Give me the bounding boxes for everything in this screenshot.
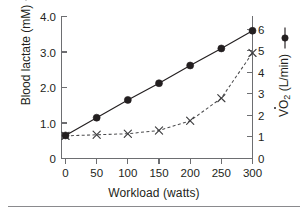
y-axis-right-title-unit: (L/min) (277, 54, 291, 91)
vo2-marker (155, 127, 162, 134)
y-left-tick-label: 2.0 (40, 82, 56, 94)
lactate-marker (187, 62, 194, 69)
y-left-tick-label: 4.0 (40, 11, 56, 23)
y-axis-right-tick-labels: 6 5 4 3 2 1 0 (258, 24, 265, 165)
y-left-tick-label: 0 (50, 153, 56, 165)
y-right-tick-label: 2 (258, 110, 264, 122)
vo2-markers (62, 49, 256, 139)
y-axis-right-title-group: VO2 (L/min) (275, 0, 295, 152)
y-left-tick-label: 3.0 (40, 47, 56, 59)
lactate-marker (124, 96, 131, 103)
x-axis-title: Workload (watts) (0, 186, 308, 200)
series-vo2 (62, 49, 256, 139)
vdot-mark (274, 107, 276, 109)
x-tick-label: 300 (243, 167, 262, 179)
legend-key-x-dashed-icon (20, 0, 32, 1)
y-right-tick-label: 0 (258, 153, 264, 165)
axis-frame (62, 16, 253, 159)
y-right-tick-label: 6 (258, 24, 264, 36)
x-tick-label: 150 (149, 167, 168, 179)
y-axis-right-ticks (247, 29, 253, 158)
vo2-marker (218, 95, 225, 102)
y-axis-left-title: Blood lactate (mM) (20, 5, 32, 106)
x-tick-label: 0 (62, 167, 68, 179)
x-tick-label: 200 (181, 167, 200, 179)
v-dot-icon: VO (278, 100, 290, 117)
y-right-tick-label: 3 (258, 88, 264, 100)
vo2-marker (187, 117, 194, 124)
y-right-tick-label: 4 (258, 67, 265, 79)
x-axis-tick-labels: 0 50 100 150 200 250 300 (62, 167, 262, 179)
y-axis-right-title: VO2 (L/min) (278, 54, 292, 117)
lactate-marker (62, 132, 69, 139)
y-right-tick-label: 5 (258, 45, 264, 57)
lactate-marker (156, 80, 163, 87)
x-axis-ticks (66, 159, 253, 165)
x-tick-label: 50 (90, 167, 103, 179)
y-axis-right-title-sep (277, 91, 291, 94)
y-left-tick-label: 1.0 (40, 118, 56, 130)
lactate-marker (93, 114, 100, 121)
x-tick-label: 250 (212, 167, 231, 179)
lactate-marker (218, 45, 225, 52)
y-right-tick-label: 1 (258, 131, 264, 143)
lactate-markers (62, 27, 256, 139)
y-axis-left-tick-labels: 4.0 3.0 2.0 1.0 0 (40, 11, 56, 165)
chart-plot-area: 4.0 3.0 2.0 1.0 0 6 5 4 3 2 1 0 0 50 100… (0, 0, 308, 214)
y-axis-right-title-main: VO (277, 100, 291, 117)
legend-key-circle-solid-icon (279, 27, 291, 49)
series-blood-lactate (62, 27, 256, 139)
lactate-marker (249, 27, 256, 34)
x-tick-label: 100 (118, 167, 137, 179)
figure-container: 4.0 3.0 2.0 1.0 0 6 5 4 3 2 1 0 0 50 100… (0, 0, 308, 214)
y-axis-left-title-group: Blood lactate (mM) (16, 0, 36, 128)
